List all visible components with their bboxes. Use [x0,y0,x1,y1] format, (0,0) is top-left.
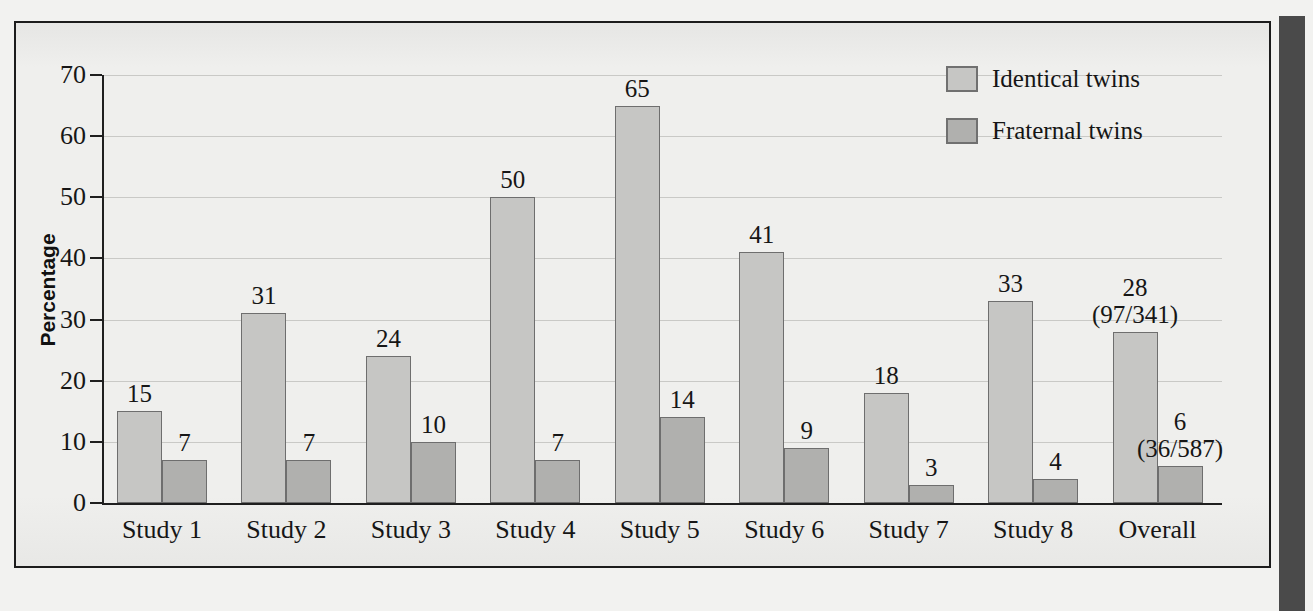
bar[interactable]: 65 [615,106,660,503]
bar[interactable]: 3 [909,485,954,503]
y-axis-tick-label: 50 [60,182,86,212]
bar[interactable]: 14 [660,417,705,503]
x-axis-tick-label: Study 6 [744,515,824,545]
bar-group: 419Study 6 [730,75,854,503]
legend-swatch [946,118,978,144]
bar-value-label: 31 [251,282,276,309]
bar-value-label: 65 [625,75,650,102]
bar-value-label: 33 [998,270,1023,297]
y-axis-title-text: Percentage [36,233,60,346]
bar-value-label: 15 [127,380,152,407]
x-axis-tick-label: Study 1 [122,515,202,545]
bar-value-sublabel: (36/587) [1137,435,1223,462]
figure-frame: Percentage 010203040506070 157Study 1317… [14,21,1271,568]
x-axis-tick-label: Overall [1119,515,1197,545]
legend-swatch [946,66,978,92]
bar[interactable]: 7 [535,460,580,503]
x-axis-tick-label: Study 2 [246,515,326,545]
y-axis-tick [90,257,102,259]
bar-value-label: 7 [178,429,191,456]
y-axis-line [102,75,104,505]
y-axis-title: Percentage [34,75,62,505]
y-axis-tick [90,441,102,443]
y-axis-tick [90,135,102,137]
x-axis-tick-label: Study 8 [993,515,1073,545]
legend-label: Fraternal twins [992,117,1143,145]
bar-value-label: 50 [500,166,525,193]
y-axis-tick [90,74,102,76]
bar[interactable]: 10 [411,442,456,503]
y-axis-tick-label: 60 [60,121,86,151]
x-axis-tick-label: Study 5 [620,515,700,545]
bar-group: 157Study 1 [108,75,232,503]
x-axis-tick-label: Study 7 [869,515,949,545]
x-axis-tick-label: Study 3 [371,515,451,545]
bar[interactable]: 7 [286,460,331,503]
bar-group: 317Study 2 [232,75,356,503]
figure-page: Percentage 010203040506070 157Study 1317… [0,0,1313,611]
y-axis-tick [90,319,102,321]
chart-legend: Identical twinsFraternal twins [946,65,1143,169]
bar-value-label: 18 [874,362,899,389]
legend-label: Identical twins [992,65,1140,93]
legend-item[interactable]: Identical twins [946,65,1143,93]
y-axis-tick [90,196,102,198]
y-axis-tick-label: 70 [60,60,86,90]
bar-value-label: 14 [670,386,695,413]
bar-value-label: 6(36/587) [1137,408,1223,462]
y-axis-tick-label: 20 [60,366,86,396]
bar-value-sublabel: (97/341) [1092,301,1178,328]
y-axis-tick [90,502,102,504]
bar-value-label: 28(97/341) [1092,274,1178,328]
x-axis-tick-label: Study 4 [495,515,575,545]
bar[interactable]: 18 [864,393,909,503]
y-axis-tick-label: 10 [60,427,86,457]
bar-group: 507Study 4 [481,75,605,503]
bar-value-label: 41 [749,221,774,248]
y-axis-tick-label: 30 [60,305,86,335]
bar-value-label: 9 [800,417,813,444]
bar-value-label: 7 [303,429,316,456]
bar-value-label: 7 [552,429,565,456]
paper-texture-top [16,23,1269,67]
bar[interactable]: 33 [988,301,1033,503]
bar[interactable]: 4 [1033,479,1078,503]
bar-value-label: 3 [925,454,938,481]
bar-group: 6514Study 5 [606,75,730,503]
x-axis-line [102,503,1222,505]
y-axis-tick-label: 40 [60,243,86,273]
bar-value-label: 4 [1049,448,1062,475]
page-edge-band [1279,16,1305,611]
y-axis-tick [90,380,102,382]
y-axis-tick-label: 0 [73,488,86,518]
bar[interactable]: 7 [162,460,207,503]
bar-value-label: 10 [421,411,446,438]
bar[interactable]: 9 [784,448,829,503]
bar[interactable]: 6(36/587) [1158,466,1203,503]
legend-item[interactable]: Fraternal twins [946,117,1143,145]
bar[interactable]: 41 [739,252,784,503]
bar[interactable]: 15 [117,411,162,503]
bar[interactable]: 50 [490,197,535,503]
bar[interactable]: 31 [241,313,286,503]
bar[interactable]: 24 [366,356,411,503]
bar-group: 2410Study 3 [357,75,481,503]
bar-value-label: 24 [376,325,401,352]
